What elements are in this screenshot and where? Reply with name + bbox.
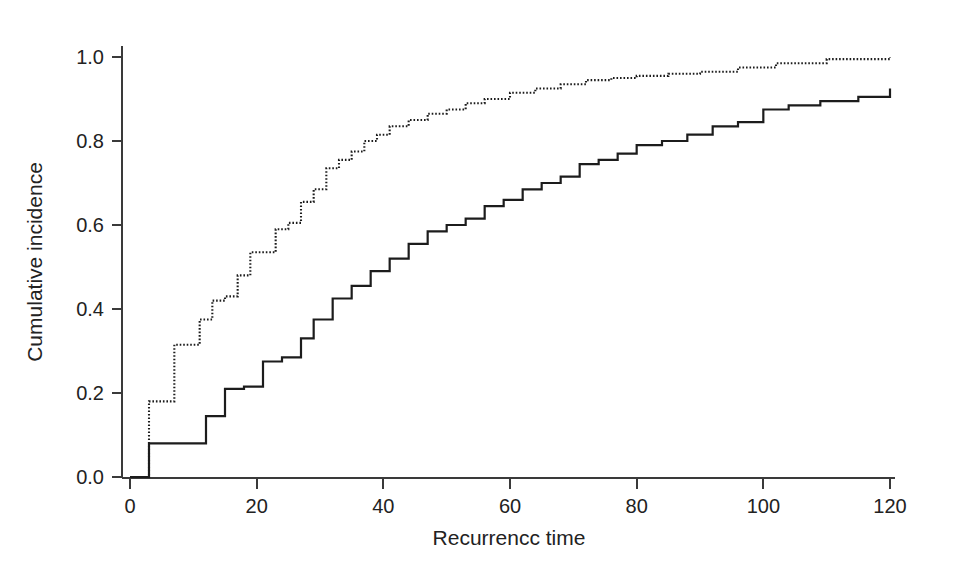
- x-tick-label: 40: [372, 495, 394, 517]
- figure-container: 0.00.20.40.60.81.0 020406080100120 Cumul…: [0, 0, 953, 569]
- x-tick-label: 120: [873, 495, 906, 517]
- y-axis-title: Cumulative incidence: [23, 162, 46, 362]
- y-tick-label: 0.6: [76, 214, 104, 236]
- y-tick-label: 0.2: [76, 382, 104, 404]
- x-tick-label: 100: [747, 495, 780, 517]
- y-tick-label: 1.0: [76, 46, 104, 68]
- x-axis-title: Recurrencc time: [433, 526, 586, 549]
- x-tick-label: 60: [499, 495, 521, 517]
- y-tick-label: 0.0: [76, 466, 104, 488]
- x-tick-label: 20: [246, 495, 268, 517]
- x-tick-label: 80: [626, 495, 648, 517]
- x-tick-group: 020406080100120: [124, 478, 906, 517]
- cumulative-incidence-chart: 0.00.20.40.60.81.0 020406080100120 Cumul…: [0, 0, 953, 569]
- y-tick-label: 0.4: [76, 298, 104, 320]
- dotted-incidence-curve: [130, 57, 890, 477]
- solid-incidence-curve: [130, 89, 890, 478]
- y-tick-group: 0.00.20.40.60.81.0: [76, 46, 122, 488]
- x-tick-label: 0: [124, 495, 135, 517]
- y-tick-label: 0.8: [76, 130, 104, 152]
